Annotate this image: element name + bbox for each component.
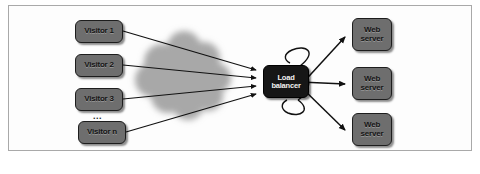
diagram-figure: Visitor 1 Visitor 2 Visitor 3 ... Visito… [0,0,480,174]
diagram-canvas [0,0,480,174]
web-server-node-3-label-line2: server [361,130,384,138]
visitor-node-n[interactable]: Visitor n [78,121,126,144]
visitor-node-2[interactable]: Visitor 2 [75,54,123,77]
web-server-node-3[interactable]: Web server [352,113,392,146]
visitor-node-2-label: Visitor 2 [84,61,114,69]
web-server-node-1-label-line2: server [361,35,384,43]
web-server-node-1[interactable]: Web server [352,18,392,51]
visitor-node-1-label: Visitor 1 [84,27,114,35]
load-balancer-node[interactable]: Load balancer [263,65,309,98]
visitor-node-3[interactable]: Visitor 3 [75,88,123,111]
web-server-node-2[interactable]: Web server [352,67,392,100]
load-balancer-label-line2: balancer [271,82,300,90]
visitor-node-n-label: Visitor n [87,128,117,136]
web-server-node-2-label-line2: server [361,84,384,92]
network-cloud-icon [135,31,231,120]
visitor-node-1[interactable]: Visitor 1 [75,20,123,43]
visitor-node-3-label: Visitor 3 [84,95,114,103]
visitor-list-ellipsis: ... [93,112,102,121]
